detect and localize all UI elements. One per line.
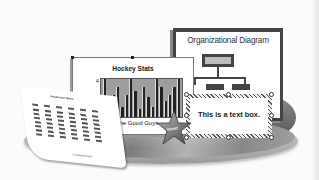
text-box-body: This is a text box. xyxy=(190,98,268,134)
resize-handle xyxy=(184,92,189,97)
spreadsheet-printout: Production Sales Confidential data xyxy=(20,86,127,168)
chart-bar xyxy=(125,95,128,117)
resize-handle xyxy=(269,135,274,140)
chart-bar xyxy=(120,107,123,117)
org-child-box xyxy=(206,84,224,90)
org-connector xyxy=(194,77,196,85)
right-border xyxy=(313,0,319,180)
chart-bar xyxy=(138,109,141,117)
org-connector xyxy=(194,77,246,79)
spreadsheet-title: Production Sales xyxy=(50,94,73,101)
text-box: This is a text box. xyxy=(186,94,272,138)
chart-bar xyxy=(129,79,132,117)
chart-y-tick: 4 xyxy=(96,78,99,84)
chart-bar xyxy=(142,87,145,117)
text-box-text: This is a text box. xyxy=(190,110,268,119)
org-child-box xyxy=(232,84,250,90)
org-connector xyxy=(217,67,219,77)
org-top-box xyxy=(202,54,234,67)
chart-title: Hockey Stats xyxy=(73,65,193,72)
selection-handle xyxy=(71,56,74,59)
resize-handle xyxy=(226,92,231,97)
selection-handle xyxy=(131,56,134,59)
chart-bar xyxy=(133,91,136,117)
org-diagram-title: Organizational Diagram xyxy=(176,36,280,45)
chart-bar xyxy=(146,97,149,117)
resize-handle xyxy=(226,135,231,140)
resize-handle xyxy=(269,113,274,118)
chart-bar xyxy=(151,107,154,117)
spreadsheet-footer: Confidential data xyxy=(72,153,92,158)
resize-handle xyxy=(269,92,274,97)
